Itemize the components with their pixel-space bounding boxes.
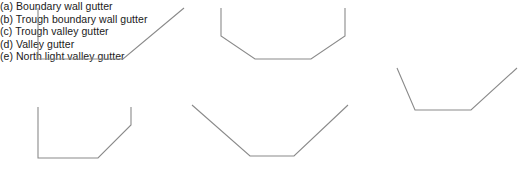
boundary-wall-gutter-profile: [36, 6, 186, 62]
diagram-valley-gutter: [190, 103, 350, 159]
gutter-outline-a: [38, 8, 184, 59]
gutter-types-figure: (a) Boundary wall gutter (b) Trough boun…: [0, 0, 523, 189]
diagram-boundary-wall-gutter: [36, 6, 186, 62]
gutter-outline-e: [397, 68, 517, 110]
gutter-outline-d: [192, 105, 348, 156]
trough-valley-gutter-profile: [219, 6, 347, 62]
gutter-outline-c: [221, 8, 345, 59]
north-light-valley-gutter-profile: [383, 66, 519, 116]
trough-boundary-wall-gutter-profile: [36, 105, 146, 161]
diagram-north-light-valley-gutter: [383, 66, 519, 116]
gutter-outline-b: [38, 107, 131, 158]
diagram-trough-boundary-wall-gutter: [36, 105, 146, 161]
diagram-trough-valley-gutter: [219, 6, 347, 62]
valley-gutter-profile: [190, 103, 350, 159]
